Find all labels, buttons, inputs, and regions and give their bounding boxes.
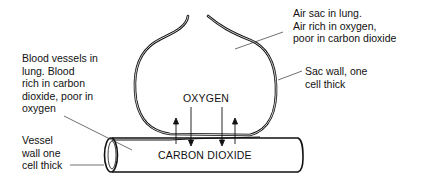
diffusion-arrows	[174, 107, 238, 146]
o2-arrow-down-icon	[189, 107, 194, 146]
air-sac-label: Air sac in lung. Air rich in oxygen, poo…	[293, 7, 396, 45]
air-sac-outline	[135, 16, 276, 135]
o2-arrow-down-icon	[220, 107, 225, 146]
blood-vessel-leader-line	[64, 116, 132, 150]
co2-arrow-up-icon	[233, 118, 238, 144]
sac-wall-leader-line	[278, 71, 302, 80]
oxygen-label: OXYGEN	[183, 92, 229, 104]
blood-vessels-label: Blood vessels in lung. Blood rich in car…	[22, 52, 98, 115]
vessel-wall-label: Vessel wall one cell thick	[22, 134, 62, 172]
carbon-dioxide-label: CARBON DIOXIDE	[158, 149, 252, 161]
sac-wall-label: Sac wall, one cell thick	[305, 65, 367, 90]
